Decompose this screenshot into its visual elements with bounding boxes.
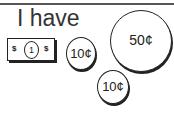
bill-value: 1 [24,41,39,59]
dollar-bill: $ 1 $ [7,38,55,61]
title: I have [17,5,80,31]
coin-dime-2: 10¢ [97,70,129,104]
dollar-sign-left: $ [12,44,16,53]
coin-dime-1: 10¢ [66,37,96,70]
worksheet: I have $ 1 $ 10¢ 50¢ 10¢ [0,0,174,125]
coin-half-dollar: 50¢ [110,10,172,72]
dollar-sign-right: $ [44,44,48,53]
